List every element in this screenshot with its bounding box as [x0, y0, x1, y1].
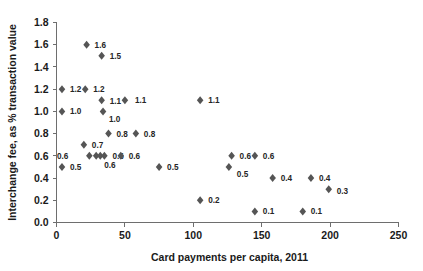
data-point-label: 0.6	[240, 152, 252, 161]
y-tick-label: 1.6	[34, 38, 49, 50]
data-point-marker	[197, 196, 204, 204]
data-point-marker	[59, 107, 66, 115]
data-point-label: 0.6	[263, 152, 275, 161]
x-tick-label: 50	[119, 229, 131, 241]
y-tick-label: 0.0	[34, 216, 49, 228]
x-tick-label: 200	[321, 229, 339, 241]
data-point-label: 1.2	[70, 85, 82, 94]
data-point-marker	[122, 96, 129, 104]
data-point-marker	[59, 85, 66, 93]
data-point-marker	[98, 96, 105, 104]
data-point-label: 0.2	[208, 196, 220, 205]
y-tick-label: 0.2	[34, 194, 49, 206]
data-point-label: 0.4	[281, 174, 293, 183]
data-point-label: 1.1	[135, 96, 147, 105]
data-point-label: 0.1	[263, 207, 275, 216]
data-point-label: 1.0	[70, 107, 82, 116]
data-point-label: 1.1	[110, 97, 122, 106]
data-point-label: 0.6	[104, 161, 116, 170]
data-point-marker	[82, 85, 89, 93]
x-tick-label: 150	[253, 229, 271, 241]
data-point-label: 1.1	[208, 96, 220, 105]
data-point-marker	[226, 163, 233, 171]
x-tick-label: 100	[185, 229, 203, 241]
data-point-marker	[59, 163, 66, 171]
data-point-marker	[197, 96, 204, 104]
y-tick-label: 1.0	[34, 105, 49, 117]
data-point-label: 0.7	[92, 141, 104, 150]
data-point-marker	[269, 174, 276, 182]
y-tick-label: 0.4	[34, 172, 49, 184]
data-point-marker	[228, 152, 235, 160]
data-point-label: 0.5	[167, 163, 179, 172]
data-point-label: 0.8	[144, 130, 156, 139]
data-point-label: 0.3	[337, 187, 349, 196]
data-point-marker	[101, 152, 108, 160]
data-point-marker	[308, 174, 315, 182]
data-point-label: 0.6	[57, 152, 69, 161]
data-point-marker	[252, 152, 259, 160]
y-tick-label: 1.4	[34, 61, 49, 73]
x-tick-label: 250	[390, 229, 408, 241]
data-point-label: 1.0	[109, 115, 121, 124]
data-point-label: 0.6	[129, 152, 141, 161]
y-tick-label: 0.8	[34, 127, 49, 139]
data-point-marker	[299, 207, 306, 215]
data-point-marker	[156, 163, 163, 171]
x-tick-label: 0	[54, 229, 60, 241]
data-point-label: 0.8	[116, 130, 128, 139]
scatter-chart: 0.00.20.40.60.81.01.21.41.61.8 050100150…	[0, 0, 423, 271]
data-point-marker	[252, 207, 259, 215]
data-point-marker	[100, 107, 107, 115]
y-axis-title: Interchange fee, as % transaction value	[6, 24, 18, 221]
data-point-label: 1.5	[110, 52, 122, 61]
data-points: 1.21.00.51.21.60.70.60.60.61.11.01.50.80…	[57, 41, 349, 217]
y-axis-ticks: 0.00.20.40.60.81.01.21.41.61.8	[34, 16, 57, 228]
data-point-label: 0.5	[70, 163, 82, 172]
data-point-marker	[81, 141, 88, 149]
y-tick-label: 1.2	[34, 83, 49, 95]
data-point-label: 0.4	[319, 174, 331, 183]
data-point-label: 1.6	[95, 41, 107, 50]
data-point-marker	[133, 130, 140, 138]
data-point-marker	[325, 185, 332, 193]
x-axis-ticks: 050100150200250	[54, 223, 408, 241]
data-point-marker	[86, 152, 93, 160]
y-tick-label: 1.8	[34, 16, 49, 28]
data-point-marker	[105, 130, 112, 138]
y-tick-label: 0.6	[34, 150, 49, 162]
data-point-marker	[83, 41, 90, 49]
data-point-label: 1.2	[93, 85, 105, 94]
data-point-label: 0.1	[311, 207, 323, 216]
x-axis-title: Card payments per capita, 2011	[151, 251, 308, 263]
data-point-label: 0.5	[237, 170, 249, 179]
data-point-marker	[98, 52, 105, 60]
chart-canvas: 0.00.20.40.60.81.01.21.41.61.8 050100150…	[0, 0, 423, 271]
